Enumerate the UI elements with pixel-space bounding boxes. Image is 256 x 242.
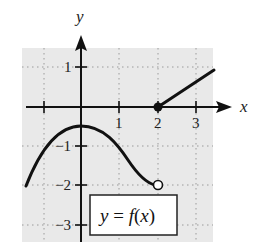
y-tick-label-minus-2: −2: [55, 177, 71, 193]
function-label-box: y = f(x): [90, 195, 177, 235]
function-label: y = f(x): [98, 205, 155, 227]
function-graph: x y 1 2 3 1 −1 −2 −3 y = f(x): [0, 0, 256, 242]
closed-endpoint-icon: [154, 103, 163, 112]
y-tick-label-minus-3: −3: [55, 217, 71, 233]
x-tick-label-2: 2: [154, 115, 162, 131]
x-tick-label-3: 3: [192, 115, 200, 131]
x-axis-label: x: [239, 97, 248, 116]
y-tick-label-1: 1: [64, 59, 72, 75]
y-tick-label-minus-1: −1: [55, 138, 71, 154]
open-endpoint-icon: [154, 181, 163, 190]
x-tick-label-1: 1: [115, 115, 123, 131]
y-axis-label: y: [74, 7, 84, 26]
